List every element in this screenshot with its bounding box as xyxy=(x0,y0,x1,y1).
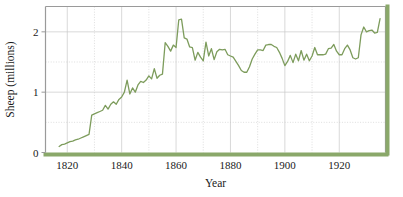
x-tick-label: 1860 xyxy=(165,159,188,171)
y-tick-label: 1 xyxy=(33,86,39,98)
x-tick-label: 1880 xyxy=(219,159,242,171)
x-tick-label: 1920 xyxy=(328,159,351,171)
chart-figure: 012 182018401860188019001920 Sheep (mill… xyxy=(0,0,403,197)
x-tick-label: 1840 xyxy=(111,159,134,171)
x-tick-label: 1820 xyxy=(56,159,79,171)
y-tick-label: 2 xyxy=(33,26,39,38)
y-tick-label: 0 xyxy=(33,147,39,159)
x-tick-label: 1900 xyxy=(274,159,297,171)
line-chart: 012 182018401860188019001920 Sheep (mill… xyxy=(0,0,403,197)
x-axis-label: Year xyxy=(205,177,226,189)
y-axis-label: Sheep (millions) xyxy=(4,41,17,118)
